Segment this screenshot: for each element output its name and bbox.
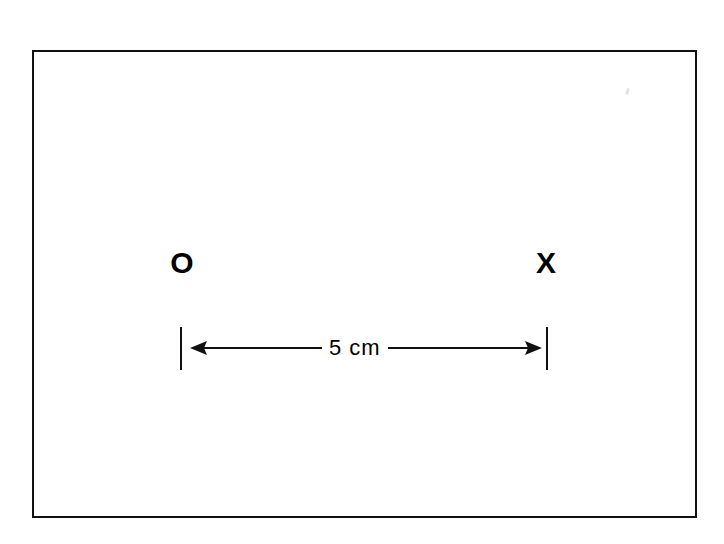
figure-frame [32, 50, 697, 518]
point-label-x: X [526, 248, 566, 278]
point-label-o: O [162, 248, 202, 278]
diagram-canvas: O X 5 cm [0, 0, 724, 544]
